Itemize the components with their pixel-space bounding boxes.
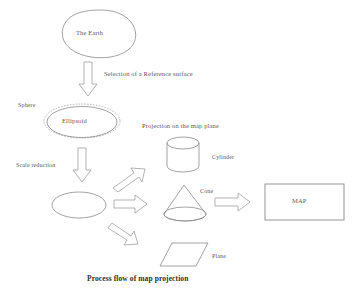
earth-label: The Earth: [76, 30, 103, 37]
cone-base: [164, 207, 206, 221]
diagram-canvas: [0, 0, 354, 295]
plane-shape: [160, 243, 208, 266]
map-projection-diagram: The Earth Selection of a Reference surfa…: [0, 0, 354, 295]
arrow-to-plane: [108, 223, 138, 245]
edge-label-scale-reduction: Scale reduction: [16, 162, 55, 168]
figure-caption: Process flow of map projection: [87, 274, 188, 283]
arrow-scale-reduction: [73, 148, 91, 182]
sphere-label: Sphere: [18, 102, 36, 108]
arrow-to-cone: [114, 195, 147, 213]
ellipsoid-label: Ellipsoid: [62, 118, 87, 125]
arrow-to-cylinder: [113, 168, 145, 192]
plane-label: Plane: [212, 253, 226, 259]
cone-label: Cone: [200, 188, 213, 194]
reduced-ellipse-shape: [52, 192, 106, 218]
edge-label-reference-surface: Selection of a Reference surface: [104, 71, 193, 78]
map-label: MAP: [292, 198, 307, 205]
arrow-earth-to-ellipsoid: [79, 62, 97, 96]
projection-group-label: Projection on the map plane: [142, 123, 219, 130]
arrow-cone-to-map: [215, 193, 250, 211]
cylinder-top: [167, 137, 199, 149]
cylinder-label: Cylinder: [212, 154, 234, 160]
